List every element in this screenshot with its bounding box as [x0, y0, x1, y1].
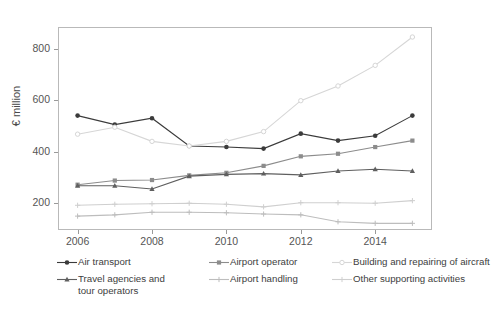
data-point-plus	[149, 201, 154, 206]
legend-label: Travel agencies and tour operators	[78, 273, 184, 296]
plot-area	[58, 27, 432, 230]
legend-label: Building and repairing of aircraft	[353, 256, 490, 268]
data-point-plus	[75, 214, 80, 219]
data-point-plus	[261, 204, 266, 209]
legend-marker-square-icon	[208, 257, 230, 268]
x-axis-tick-label: 2010	[215, 235, 238, 247]
legend-marker-plus-icon	[331, 274, 353, 285]
data-point-square	[373, 145, 377, 149]
legend-item[interactable]: Travel agencies and tour operators	[56, 273, 184, 296]
data-point-plus	[335, 200, 340, 205]
data-point-circle-open	[336, 84, 340, 88]
data-point-plus	[224, 202, 229, 207]
series-line	[78, 37, 413, 146]
data-point-circle	[410, 113, 415, 118]
data-point-square	[217, 260, 221, 264]
data-point-circle-open	[410, 35, 414, 39]
data-point-plus	[339, 277, 344, 282]
data-point-plus	[410, 221, 415, 226]
y-axis-label: € million	[10, 56, 22, 156]
data-point-plus	[373, 221, 378, 226]
data-point-plus	[187, 201, 192, 206]
data-point-plus	[224, 210, 229, 215]
data-point-circle	[75, 113, 80, 118]
series-line	[78, 141, 413, 185]
legend-marker-circle-icon	[56, 257, 78, 268]
data-point-square	[299, 154, 303, 158]
data-point-circle	[373, 133, 378, 138]
data-point-circle	[299, 131, 304, 136]
data-point-circle	[150, 116, 155, 121]
data-point-plus	[187, 210, 192, 215]
legend-item[interactable]: Airport operator	[208, 256, 326, 268]
legend-label: Air transport	[78, 256, 131, 268]
x-axis-tick-mark	[152, 230, 153, 234]
data-point-circle	[336, 138, 341, 143]
data-point-circle-open	[373, 63, 377, 67]
legend-item[interactable]: Airport handling	[208, 273, 326, 285]
data-point-circle	[65, 260, 70, 265]
data-point-plus	[335, 219, 340, 224]
data-point-plus	[75, 203, 80, 208]
data-point-circle-open	[113, 125, 117, 129]
data-point-circle-open	[299, 98, 303, 102]
data-point-plus	[298, 212, 303, 217]
data-point-square	[113, 178, 117, 182]
data-point-plus	[261, 211, 266, 216]
data-point-plus	[112, 212, 117, 217]
legend-label: Other supporting activities	[353, 273, 465, 285]
data-point-circle-open	[187, 144, 191, 148]
data-point-plus	[410, 198, 415, 203]
legend-label: Airport handling	[230, 273, 298, 285]
data-point-circle	[261, 146, 266, 151]
data-point-circle-open	[150, 139, 154, 143]
legend-marker-plus-icon	[208, 274, 230, 285]
x-axis-tick-mark	[375, 230, 376, 234]
x-axis-tick-label: 2014	[364, 235, 387, 247]
series-3	[75, 167, 415, 192]
series-line	[78, 169, 413, 189]
y-axis-tick-label: 200	[22, 196, 50, 208]
data-point-plus	[112, 202, 117, 207]
data-point-square	[336, 152, 340, 156]
data-point-square	[262, 164, 266, 168]
y-axis-tick-label: 400	[22, 145, 50, 157]
data-point-circle-open	[340, 260, 344, 264]
data-point-plus	[216, 277, 221, 282]
data-point-circle	[224, 145, 229, 150]
legend-item[interactable]: Other supporting activities	[331, 273, 495, 285]
series-5	[75, 198, 415, 209]
data-point-plus	[373, 201, 378, 206]
data-point-square	[150, 178, 154, 182]
x-axis-tick-label: 2006	[66, 235, 89, 247]
series-line	[78, 201, 413, 207]
series-1	[76, 139, 415, 187]
x-axis-tick-label: 2008	[140, 235, 163, 247]
legend-marker-circle-open-icon	[331, 257, 353, 268]
x-axis-tick-mark	[226, 230, 227, 234]
y-axis-tick-label: 800	[22, 42, 50, 54]
x-axis-tick-mark	[301, 230, 302, 234]
x-axis-tick-mark	[78, 230, 79, 234]
chart-legend: Air transportAirport operatorBuilding an…	[56, 256, 456, 310]
legend-item[interactable]: Building and repairing of aircraft	[331, 256, 495, 268]
legend-marker-triangle-icon	[56, 274, 78, 285]
data-point-circle-open	[75, 132, 79, 136]
series-2	[75, 35, 414, 148]
y-axis-tick-label: 600	[22, 93, 50, 105]
series-line	[78, 212, 413, 223]
data-point-circle-open	[224, 139, 228, 143]
series-4	[75, 210, 415, 226]
data-point-plus	[298, 200, 303, 205]
data-point-circle-open	[261, 129, 265, 133]
x-axis-tick-label: 2012	[289, 235, 312, 247]
data-point-square	[410, 139, 414, 143]
legend-item[interactable]: Air transport	[56, 256, 184, 268]
data-point-plus	[149, 210, 154, 215]
legend-label: Airport operator	[230, 256, 297, 268]
series-canvas	[59, 28, 431, 229]
